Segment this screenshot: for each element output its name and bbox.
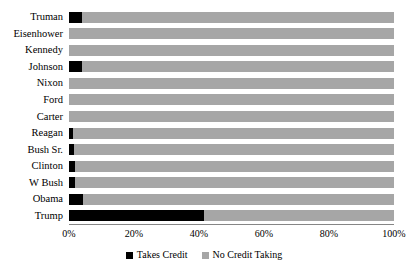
x-tick-label: 100% — [382, 227, 405, 240]
x-tick-label: 20% — [125, 227, 143, 240]
bar-segment-no-credit-taking — [69, 111, 394, 122]
category-label-eisenhower: Eisenhower — [13, 28, 63, 40]
plot-area — [69, 9, 394, 224]
category-label-carter: Carter — [37, 111, 63, 123]
x-tick-label: 40% — [190, 227, 208, 240]
legend-swatch-icon — [126, 252, 133, 259]
bar-row — [69, 61, 394, 72]
bar-segment-no-credit-taking — [69, 78, 394, 89]
bar-segment-no-credit-taking — [69, 45, 394, 56]
bar-row — [69, 161, 394, 172]
category-label-johnson: Johnson — [29, 61, 63, 73]
category-label-clinton: Clinton — [31, 160, 63, 172]
bar-segment-no-credit-taking — [74, 144, 394, 155]
category-label-kennedy: Kennedy — [25, 44, 63, 56]
legend-label: No Credit Taking — [213, 249, 283, 261]
bar-row — [69, 94, 394, 105]
bar-row — [69, 194, 394, 205]
bar-row — [69, 111, 394, 122]
x-axis-line — [69, 224, 394, 225]
bar-segment-no-credit-taking — [69, 94, 394, 105]
legend-item: No Credit Taking — [202, 249, 283, 261]
legend-item: Takes Credit — [126, 249, 188, 261]
bar-row — [69, 128, 394, 139]
bar-row — [69, 78, 394, 89]
bar-segment-no-credit-taking — [75, 177, 394, 188]
bar-row — [69, 210, 394, 221]
credit-taking-stacked-bar-chart: TrumanEisenhowerKennedyJohnsonNixonFordC… — [0, 0, 408, 271]
bar-segment-no-credit-taking — [69, 28, 394, 39]
bar-segment-takes-credit — [69, 210, 204, 221]
category-label-trump: Trump — [35, 210, 63, 222]
category-label-bush-sr: Bush Sr. — [27, 144, 63, 156]
bar-segment-no-credit-taking — [82, 61, 394, 72]
chart-title — [0, 0, 408, 3]
x-axis-tick-labels: 0%20%40%60%80%100% — [0, 227, 408, 241]
category-axis: TrumanEisenhowerKennedyJohnsonNixonFordC… — [0, 9, 67, 224]
x-tick-label: 60% — [255, 227, 273, 240]
bar-row — [69, 45, 394, 56]
bar-segment-takes-credit — [69, 194, 83, 205]
x-tick-label: 80% — [320, 227, 338, 240]
legend-swatch-icon — [202, 252, 209, 259]
bar-row — [69, 177, 394, 188]
category-label-truman: Truman — [30, 11, 63, 23]
legend-label: Takes Credit — [137, 249, 188, 261]
category-label-obama: Obama — [33, 193, 63, 205]
category-label-nixon: Nixon — [37, 77, 63, 89]
bar-segment-takes-credit — [69, 61, 82, 72]
bar-segment-no-credit-taking — [75, 161, 394, 172]
bar-segment-takes-credit — [69, 12, 82, 23]
chart-legend: Takes CreditNo Credit Taking — [0, 249, 408, 261]
bar-segment-no-credit-taking — [73, 128, 394, 139]
bar-row — [69, 12, 394, 23]
category-label-ford: Ford — [43, 94, 63, 106]
bar-segment-no-credit-taking — [83, 194, 394, 205]
bar-segment-no-credit-taking — [204, 210, 394, 221]
category-label-reagan: Reagan — [32, 127, 64, 139]
category-label-w-bush: W Bush — [29, 177, 63, 189]
bar-segment-no-credit-taking — [82, 12, 394, 23]
x-tick-label: 0% — [62, 227, 75, 240]
bar-row — [69, 144, 394, 155]
bar-row — [69, 28, 394, 39]
